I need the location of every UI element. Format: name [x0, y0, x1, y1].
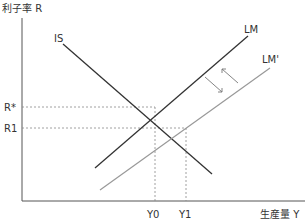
lm-curve — [95, 36, 248, 168]
y0-label: Y0 — [146, 209, 159, 220]
y-axis-label: 利子率 R — [2, 2, 42, 14]
lm-label: LM — [244, 24, 258, 35]
is-lm-diagram: 利子率 R 生産量 Y IS LM LM' R* R1 Y0 Y1 — [0, 0, 307, 223]
x-axis-label: 生産量 Y — [260, 208, 300, 220]
is-label: IS — [54, 33, 63, 44]
r1-label: R1 — [4, 123, 17, 134]
lm-prime-curve — [100, 68, 270, 190]
r-star-label: R* — [4, 102, 16, 113]
shift-arrows-icon — [205, 69, 238, 92]
lm-prime-label: LM' — [262, 54, 279, 65]
y1-label: Y1 — [178, 209, 191, 220]
is-curve — [63, 44, 212, 174]
